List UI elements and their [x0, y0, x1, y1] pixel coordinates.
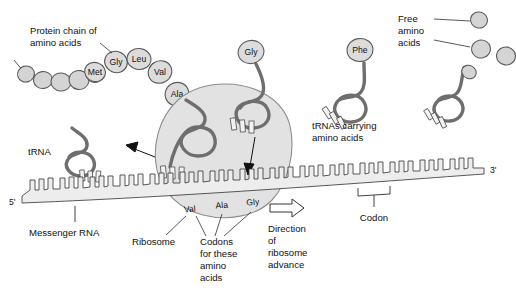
- direction-of-advance-group: Direction of ribosome advance: [268, 199, 307, 270]
- ribosome-label: Ribosome: [132, 236, 175, 247]
- codon-bracket: [358, 186, 390, 196]
- anticodon-prong: [249, 121, 254, 133]
- amino-acid-leu: Leu: [126, 47, 152, 70]
- codon-label: Codon: [360, 212, 388, 223]
- ribosome-caption: Ribosome: [132, 216, 186, 247]
- protein-chain-label-line1: Protein chain of: [30, 25, 97, 36]
- free-amino-acids-leader: [434, 40, 470, 47]
- amino-acid-label: Gly: [245, 47, 259, 57]
- diagram-canvas: Met Gly Leu Val Ala Protein chain of ami…: [0, 0, 516, 292]
- amino-acid-gly-trna: Gly: [236, 38, 266, 66]
- anticodon-prong: [240, 120, 246, 132]
- codon-bracket-group: Codon: [358, 186, 390, 223]
- direction-arrow-icon: [270, 199, 304, 217]
- trna-charged-phe: Phe tRNAs carrying amino acids: [312, 37, 377, 143]
- amino-acid-label: Leu: [132, 54, 147, 64]
- codons-label-line3: amino: [200, 260, 226, 271]
- direction-label-line4: advance: [268, 259, 304, 270]
- amino-acid-label: Phe: [352, 45, 368, 55]
- trna-carrying-label-line1: tRNAs carrying: [312, 120, 377, 131]
- codon-label-gly: Gly: [246, 196, 260, 207]
- amino-acid-blob: [50, 72, 71, 91]
- free-amino-acid-blob: [495, 46, 516, 66]
- codons-label-line4: acids: [200, 272, 223, 283]
- direction-label-line2: of: [268, 235, 276, 246]
- amino-acid-phe: Phe: [346, 37, 375, 63]
- free-amino-acids-label-line2: amino: [398, 25, 424, 36]
- protein-chain-caption: Protein chain of amino acids: [30, 25, 112, 53]
- trna-left-label: tRNA: [28, 146, 52, 157]
- free-amino-acids-label-line3: acids: [398, 37, 421, 48]
- free-amino-acids-label-line1: Free: [398, 13, 418, 24]
- free-amino-acid-blob: [470, 38, 492, 60]
- trna-backbone: [66, 128, 94, 176]
- amino-acid-label: Met: [88, 67, 103, 77]
- messenger-rna-label: Messenger RNA: [29, 227, 100, 238]
- free-amino-acids-group: Free amino acids: [398, 10, 516, 81]
- trna-backbone: [335, 63, 366, 122]
- three-prime-label: 3': [490, 165, 497, 175]
- codon-label-ala: Ala: [215, 199, 228, 210]
- arrow-head: [126, 142, 138, 152]
- protein-chain-group: Met Gly Leu Val Ala: [14, 47, 193, 110]
- protein-chain-leader: [100, 43, 112, 53]
- direction-label-line3: ribosome: [268, 247, 307, 258]
- trna-backbone: [434, 68, 464, 121]
- free-amino-acid-blob: [469, 10, 489, 30]
- trna-exiting: tRNA: [28, 128, 101, 182]
- free-amino-acids-leader: [434, 19, 470, 21]
- codon-label-val: Val: [183, 203, 196, 214]
- trna-carrying-label-line2: amino acids: [312, 132, 363, 143]
- codons-leader: [196, 216, 206, 236]
- trna-uncharged-free: [424, 68, 464, 128]
- codons-caption: Codons for these amino acids: [196, 212, 251, 283]
- amino-acid-label: Val: [154, 67, 166, 77]
- trna-exit-arrow: [126, 142, 155, 157]
- ribosome-leader: [166, 216, 186, 235]
- five-prime-label: 5': [9, 197, 16, 207]
- amino-acid-blob: [32, 70, 53, 89]
- direction-label-line1: Direction: [268, 223, 306, 234]
- protein-chain-label-line2: amino acids: [30, 37, 81, 48]
- protein-synthesis-diagram: Met Gly Leu Val Ala Protein chain of ami…: [0, 0, 516, 292]
- codons-label-line1: Codons: [200, 236, 233, 247]
- amino-acid-label: Gly: [110, 57, 124, 67]
- codons-label-line2: for these: [200, 248, 237, 259]
